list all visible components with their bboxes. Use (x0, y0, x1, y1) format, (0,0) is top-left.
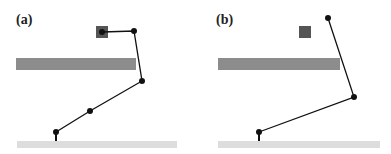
joint-icon (87, 108, 93, 114)
joint-icon (139, 78, 145, 84)
joint-icon (53, 129, 59, 135)
robot-arm (0, 0, 195, 154)
panel-a: (a) (0, 0, 195, 154)
end-effector-icon (325, 15, 331, 21)
joint-icon (351, 94, 357, 100)
joint-icon (131, 28, 137, 34)
panel-b: (b) (195, 0, 390, 154)
joint-icon (256, 129, 262, 135)
end-effector-icon (99, 29, 105, 35)
robot-arm (195, 0, 391, 154)
